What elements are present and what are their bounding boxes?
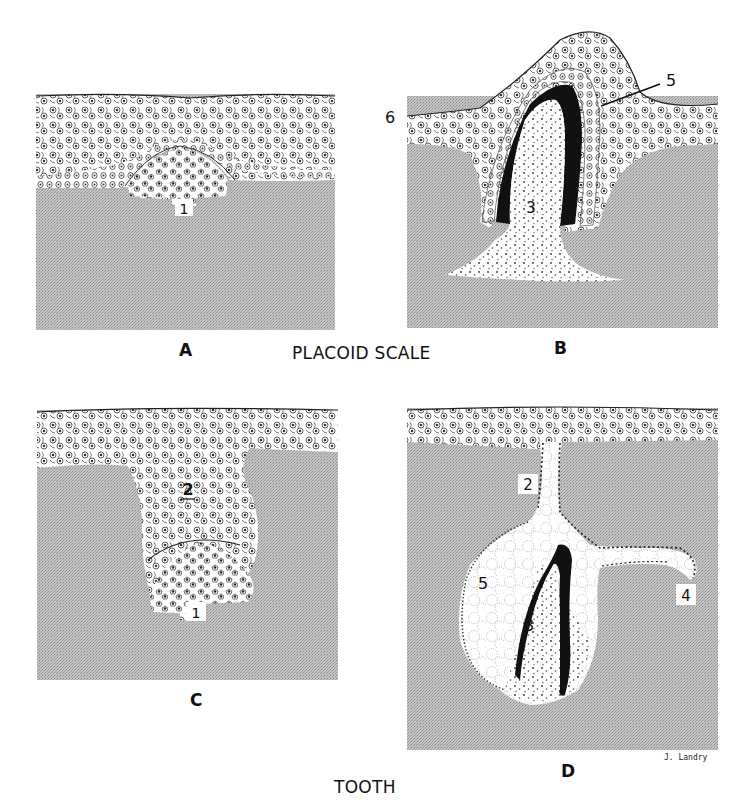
illustration-canvas: 1 3 5 6 2 1 2 3 (0, 0, 748, 804)
panel-b-drawing: 3 5 6 (385, 32, 718, 328)
panel-d-drawing: 2 3 4 5 (407, 407, 718, 750)
panel-letter-d: D (561, 761, 575, 781)
figure: 1 3 5 6 2 1 2 3 (0, 0, 748, 804)
panel-a-drawing: 1 (36, 94, 335, 330)
label-c-1: 1 (192, 605, 201, 621)
label-c-2: 2 (182, 480, 193, 499)
label-b-5: 5 (666, 71, 676, 90)
panel-c-drawing: 2 1 (37, 408, 338, 680)
label-b-3: 3 (526, 199, 536, 217)
section-title-placoid-scale: PLACOID SCALE (292, 343, 431, 363)
section-title-tooth: TOOTH (334, 777, 396, 797)
label-d-2: 2 (523, 476, 533, 494)
label-d-3: 3 (524, 616, 534, 635)
label-d-4: 4 (681, 587, 691, 605)
label-d-5: 5 (478, 574, 488, 593)
label-b-6: 6 (385, 108, 395, 127)
label-a-1: 1 (180, 201, 189, 217)
panel-letter-a: A (179, 340, 192, 360)
panel-letter-c: C (190, 690, 202, 710)
panel-letter-b: B (554, 338, 567, 358)
artist-signature: J. Landry (664, 753, 707, 762)
